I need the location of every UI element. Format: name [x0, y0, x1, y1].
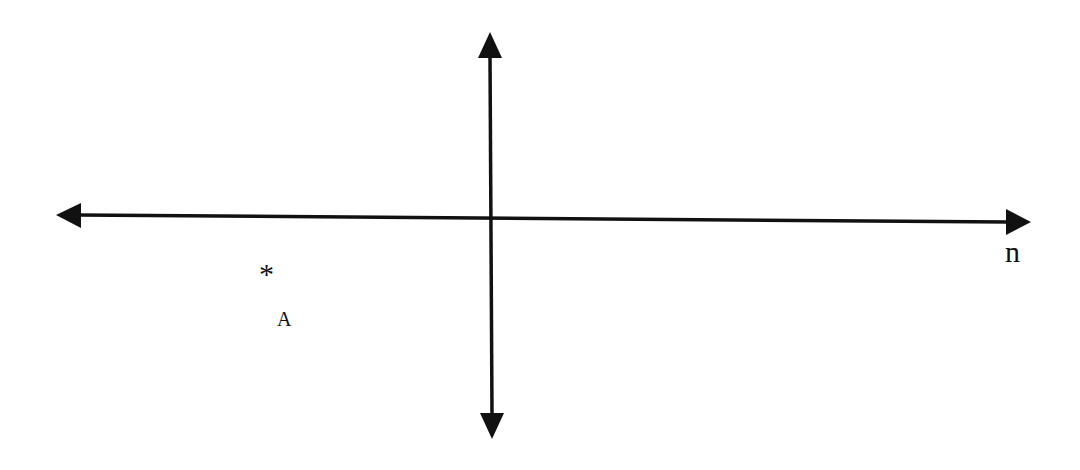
axes-diagram: [0, 0, 1080, 470]
right-arrowhead-icon: [1006, 209, 1031, 235]
left-arrowhead-icon: [56, 203, 81, 228]
point-marker: *: [259, 259, 274, 289]
up-arrowhead-icon: [478, 32, 502, 58]
horizontal-axis-label: n: [1005, 237, 1020, 267]
point-label: A: [277, 309, 291, 329]
horizontal-axis: [56, 203, 1031, 235]
down-arrowhead-icon: [480, 413, 504, 439]
vertical-axis: [478, 32, 504, 439]
